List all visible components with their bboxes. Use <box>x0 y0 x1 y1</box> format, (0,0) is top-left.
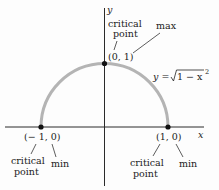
point-coord-label: (− 1, 0) <box>24 131 61 142</box>
point-coord-label: (0, 1) <box>108 51 134 62</box>
annotation-min: min <box>51 158 69 169</box>
point-right-min: (1, 0) critical point min <box>130 124 197 179</box>
point-top-max: (0, 1) critical point max <box>102 18 177 66</box>
annotation-min: min <box>179 158 197 169</box>
equation-exponent: 2 <box>205 68 209 76</box>
diagram-canvas: y x y = 1 − x 2 (0, 1) critical point ma… <box>0 0 219 190</box>
y-axis-label: y <box>106 4 113 15</box>
leader-line-critical <box>114 41 117 50</box>
equation-radicand: 1 − x <box>177 71 203 82</box>
point-left-min: (− 1, 0) critical point min <box>11 124 69 177</box>
leader-line-critical <box>153 144 160 156</box>
leader-line-min <box>52 144 56 157</box>
point-marker <box>38 124 43 129</box>
leader-line-min <box>176 144 183 157</box>
x-axis-label: x <box>198 129 204 140</box>
semicircle-critical-points-diagram: y x y = 1 − x 2 (0, 1) critical point ma… <box>0 0 219 190</box>
annotation-critical-line2: point <box>133 168 158 179</box>
point-coord-label: (1, 0) <box>156 131 182 142</box>
point-marker <box>165 124 170 129</box>
curve-equation: y = 1 − x 2 <box>152 68 209 82</box>
annotation-critical-line1: critical <box>130 157 164 168</box>
leader-line-critical <box>31 144 36 154</box>
annotation-max: max <box>156 20 177 31</box>
point-marker <box>102 61 107 66</box>
equation-lhs: y = <box>152 71 169 82</box>
annotation-critical-line2: point <box>14 166 39 177</box>
annotation-critical-line1: critical <box>11 155 45 166</box>
annotation-critical-line2: point <box>113 28 138 39</box>
